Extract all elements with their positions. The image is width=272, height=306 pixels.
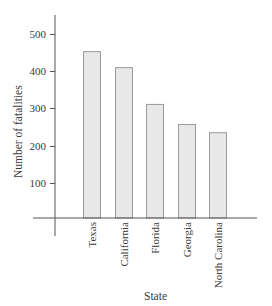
y-axis-label: Number of fatalities (12, 85, 24, 178)
y-tick-label: 400 (16, 65, 46, 77)
bar-georgia (179, 125, 196, 218)
bars-group (84, 52, 227, 218)
bar-california (116, 68, 133, 218)
x-category-label: Georgia (181, 222, 193, 302)
x-category-label: Texas (86, 222, 98, 302)
x-category-label: California (118, 222, 130, 302)
y-tick-label: 100 (16, 177, 46, 189)
x-axis-label: State (144, 290, 167, 302)
y-ticks-group (50, 35, 55, 184)
bar-florida (147, 104, 164, 218)
bar-texas (84, 52, 101, 218)
y-tick-label: 500 (16, 28, 46, 40)
bar-north-carolina (210, 133, 227, 218)
x-category-label: North Carolina (212, 222, 224, 302)
plot-area (0, 0, 272, 306)
bar-chart: 100200300400500 TexasCaliforniaFloridaGe… (0, 0, 272, 306)
